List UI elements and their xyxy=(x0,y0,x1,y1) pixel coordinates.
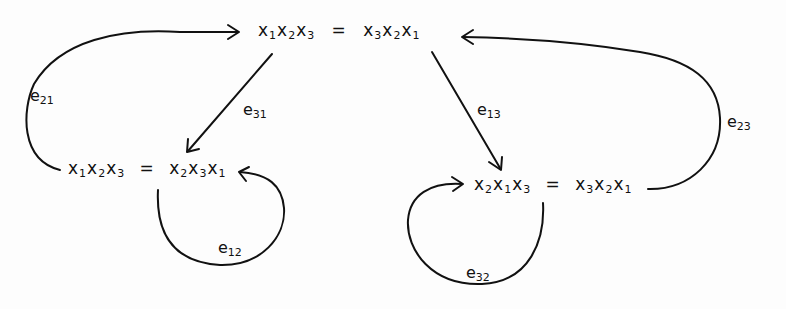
arrowhead-e12 xyxy=(239,167,249,181)
node-top-lhs: x1x2x3 xyxy=(258,20,315,40)
node-top: x1x2x3 = x3x2x1 xyxy=(258,22,420,41)
node-left-rhs: x2x3x1 xyxy=(169,158,226,178)
node-left-lhs: x1x2x3 xyxy=(68,158,125,178)
edge-label-e12: e12 xyxy=(218,240,242,258)
edge-label-e32: e32 xyxy=(466,265,490,283)
equals-sign: = xyxy=(546,174,561,194)
edge-e21 xyxy=(26,31,238,170)
node-left: x1x2x3 = x2x3x1 xyxy=(68,160,226,179)
equals-sign: = xyxy=(332,20,347,40)
equals-sign: = xyxy=(140,158,155,178)
edge-label-e21: e21 xyxy=(30,88,54,106)
node-right-lhs: x2x1x3 xyxy=(474,174,531,194)
node-right: x2x1x3 = x3x2x1 xyxy=(474,176,632,195)
edge-label-e23: e23 xyxy=(727,114,751,132)
state-diagram: x1x2x3 = x3x2x1 x1x2x3 = x2x3x1 x2x1x3 =… xyxy=(0,0,786,309)
edges-layer xyxy=(0,0,786,309)
node-top-rhs: x3x2x1 xyxy=(363,20,420,40)
edge-label-e13: e13 xyxy=(477,102,501,120)
node-right-rhs: x3x2x1 xyxy=(575,174,632,194)
edge-label-e31: e31 xyxy=(243,102,267,120)
